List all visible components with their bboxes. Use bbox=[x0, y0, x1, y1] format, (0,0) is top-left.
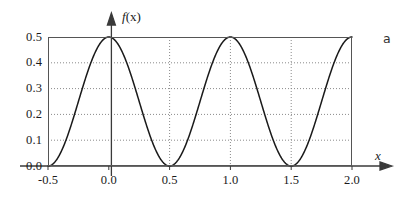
y-tick-label: 0.1 bbox=[0, 134, 42, 146]
y-axis-title-arg: (x) bbox=[126, 9, 141, 24]
figure-panel: 0.5 0.4 0.3 0.2 0.1 0.0 -0.5 0.0 0.5 1.0… bbox=[0, 0, 412, 201]
plot-frame bbox=[48, 37, 352, 166]
y-axis-arrowhead bbox=[107, 13, 115, 25]
y-tick-label: 0.3 bbox=[0, 82, 42, 94]
x-tick-label: 0.5 bbox=[145, 174, 195, 186]
x-tick-label: 1.5 bbox=[266, 174, 316, 186]
y-axis-title: f(x) bbox=[122, 9, 141, 25]
x-tick-label: 1.0 bbox=[205, 174, 255, 186]
x-tick-label: 2.0 bbox=[327, 174, 377, 186]
x-tick-label: 0.0 bbox=[84, 174, 134, 186]
y-tick-label: 0.5 bbox=[0, 31, 42, 43]
y-tick-label: 0.2 bbox=[0, 108, 42, 120]
y-tick-label: 0.0 bbox=[0, 160, 42, 172]
y-tick-label: 0.4 bbox=[0, 56, 42, 68]
x-tick-label: -0.5 bbox=[23, 174, 73, 186]
x-axis-arrowhead bbox=[380, 162, 392, 170]
panel-label: a bbox=[383, 31, 391, 46]
x-axis-title: x bbox=[375, 148, 381, 164]
